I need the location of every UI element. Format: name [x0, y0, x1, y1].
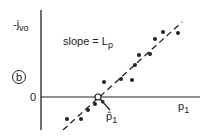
y-axis-label: -jvo [13, 18, 29, 33]
data-point [102, 80, 106, 84]
data-point [119, 77, 123, 81]
data-point [137, 53, 141, 57]
data-point [79, 117, 83, 121]
slope-annotation: slope = Lp [63, 35, 113, 50]
data-point [86, 108, 90, 112]
x-axis-label: p1 [178, 100, 189, 115]
data-point [176, 31, 180, 35]
origin-label: 0 [30, 91, 36, 103]
scatter-diagram: -jvo b 0 slope = Lp [0, 0, 209, 138]
data-point [130, 78, 134, 82]
data-point [161, 30, 165, 34]
data-point [153, 37, 157, 41]
data-point [148, 52, 152, 56]
intercept-label: p̂1 [106, 110, 117, 125]
data-point [65, 117, 69, 121]
data-point [93, 102, 97, 106]
panel-label: b [16, 71, 22, 83]
intercept-arrow-icon [100, 99, 110, 110]
data-point [133, 63, 137, 67]
